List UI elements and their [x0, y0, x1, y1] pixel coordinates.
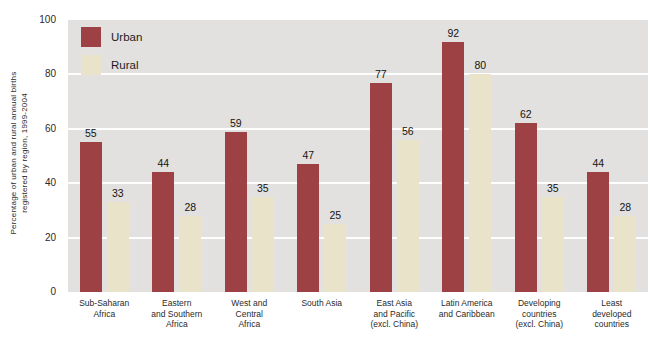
- rural-bar-wrap: 35: [542, 20, 564, 292]
- bar-value-label: 47: [302, 149, 314, 161]
- bar-value-label: 62: [520, 108, 532, 120]
- y-tick-label: 40: [30, 177, 56, 188]
- x-category-label: Latin America and Caribbean: [431, 298, 504, 330]
- bar-value-label: 56: [402, 125, 414, 137]
- bar-value-label: 28: [619, 201, 631, 213]
- urban-bar: [587, 172, 609, 292]
- x-category-label: Developing countries (excl. China): [503, 298, 576, 330]
- y-tick-label: 20: [30, 232, 56, 243]
- bar-value-label: 92: [447, 27, 459, 39]
- x-category-label: Least developed countries: [576, 298, 649, 330]
- urban-bar: [225, 132, 247, 292]
- rural-bar-wrap: 25: [324, 20, 346, 292]
- legend-label-urban: Urban: [111, 31, 142, 43]
- bar-value-label: 35: [547, 182, 559, 194]
- plot-area: Urban Rural 5533442859354725775692806235…: [68, 20, 648, 292]
- bar-value-label: 28: [184, 201, 196, 213]
- urban-bar: [442, 42, 464, 292]
- x-category-label: South Asia: [286, 298, 359, 330]
- rural-bar: [179, 216, 201, 292]
- y-axis-title-line2: registered by region, 1999-2004: [19, 14, 30, 292]
- bar-value-label: 59: [230, 117, 242, 129]
- y-tick-label: 60: [30, 123, 56, 134]
- urban-bar: [297, 164, 319, 292]
- bar-value-label: 33: [112, 187, 124, 199]
- legend-item-urban: Urban: [81, 27, 142, 47]
- bar-value-label: 25: [329, 209, 341, 221]
- bar-group: 4428: [141, 20, 214, 292]
- bar-value-label: 77: [375, 68, 387, 80]
- bar-value-label: 44: [157, 157, 169, 169]
- x-axis-labels: Sub-Saharan AfricaEastern and Southern A…: [68, 298, 648, 330]
- rural-bar-wrap: 56: [397, 20, 419, 292]
- rural-bar: [614, 216, 636, 292]
- x-category-label: Eastern and Southern Africa: [141, 298, 214, 330]
- bar-group: 4725: [286, 20, 359, 292]
- rural-bar: [252, 197, 274, 292]
- urban-bar-wrap: 47: [297, 20, 319, 292]
- chart-page: Percentage of urban and rural annual bir…: [0, 0, 659, 353]
- y-tick-label: 0: [30, 286, 56, 297]
- rural-bar: [107, 202, 129, 292]
- bar-group: 4428: [576, 20, 649, 292]
- rural-bar: [542, 197, 564, 292]
- urban-bar-wrap: 44: [152, 20, 174, 292]
- urban-bar: [152, 172, 174, 292]
- rural-bar-wrap: 28: [179, 20, 201, 292]
- bar-value-label: 55: [85, 127, 97, 139]
- legend-swatch-rural: [81, 55, 101, 75]
- bar-value-label: 35: [257, 182, 269, 194]
- rural-bar-wrap: 80: [469, 20, 491, 292]
- bar-group: 7756: [358, 20, 431, 292]
- bar-group: 6235: [503, 20, 576, 292]
- urban-bar-wrap: 44: [587, 20, 609, 292]
- urban-bar: [370, 83, 392, 292]
- rural-bar: [397, 140, 419, 292]
- x-category-label: West and Central Africa: [213, 298, 286, 330]
- urban-bar-wrap: 77: [370, 20, 392, 292]
- legend: Urban Rural: [81, 27, 142, 83]
- x-category-label: East Asia and Pacific (excl. China): [358, 298, 431, 330]
- urban-bar: [80, 142, 102, 292]
- urban-bar-wrap: 59: [225, 20, 247, 292]
- rural-bar-wrap: 35: [252, 20, 274, 292]
- bar-value-label: 44: [592, 157, 604, 169]
- rural-bar: [469, 74, 491, 292]
- legend-item-rural: Rural: [81, 55, 142, 75]
- urban-bar: [515, 123, 537, 292]
- bar-group: 9280: [431, 20, 504, 292]
- y-tick-label: 100: [30, 14, 56, 25]
- urban-bar-wrap: 62: [515, 20, 537, 292]
- y-axis-ticks: 020406080100: [30, 20, 62, 292]
- rural-bar-wrap: 28: [614, 20, 636, 292]
- bar-groups: 55334428593547257756928062354428: [68, 20, 648, 292]
- bar-value-label: 80: [474, 59, 486, 71]
- bar-group: 5935: [213, 20, 286, 292]
- legend-swatch-urban: [81, 27, 101, 47]
- legend-label-rural: Rural: [111, 59, 138, 71]
- urban-bar-wrap: 92: [442, 20, 464, 292]
- x-category-label: Sub-Saharan Africa: [68, 298, 141, 330]
- rural-bar: [324, 224, 346, 292]
- y-axis-title-line1: Percentage of urban and rural annual bir…: [8, 14, 19, 292]
- y-tick-label: 80: [30, 68, 56, 79]
